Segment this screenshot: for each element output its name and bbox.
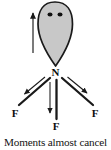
atom-label-fluorine-right: F: [92, 107, 99, 119]
atom-label-fluorine-center: F: [53, 120, 60, 132]
atom-label-nitrogen: N: [52, 66, 60, 78]
electron-dot-right: [58, 13, 63, 17]
atom-label-fluorine-left: F: [12, 107, 19, 119]
bond-n-f-left: [19, 78, 50, 105]
lone-pair-outline: [38, 2, 73, 66]
electron-dot-left: [48, 13, 53, 17]
figure-caption: Moments almost cancel: [0, 136, 111, 148]
nf3-dipole-figure: N F F F Moments almost cancel: [0, 0, 111, 150]
lone-pair-lobe: [38, 2, 73, 66]
bond-n-f-right: [62, 78, 93, 105]
molecule-diagram: N F F F: [0, 0, 111, 150]
